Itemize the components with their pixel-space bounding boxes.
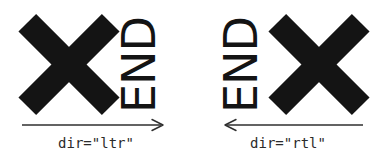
arrow-left-wrapper <box>192 118 384 132</box>
panel-rtl: END dir="rtl" <box>192 0 384 161</box>
arrow-right-wrapper <box>0 118 192 132</box>
caption-dir-rtl: dir="rtl" <box>192 134 384 152</box>
end-word-rtl: END <box>221 16 261 113</box>
end-word-label: END <box>218 17 264 113</box>
direction-comparison-figure: END dir="ltr" END <box>0 0 384 161</box>
end-word-ltr: END <box>119 16 159 113</box>
arrow-left-icon <box>192 118 384 132</box>
x-glyph-icon <box>21 16 117 113</box>
arrow-right-icon <box>0 118 192 132</box>
panel-ltr: END dir="ltr" <box>0 0 192 161</box>
end-word-label: END <box>116 17 162 113</box>
glyph-row-ltr: END <box>0 16 192 116</box>
caption-dir-ltr: dir="ltr" <box>0 134 192 152</box>
x-glyph-icon <box>271 16 367 113</box>
glyph-row-rtl: END <box>192 16 384 116</box>
